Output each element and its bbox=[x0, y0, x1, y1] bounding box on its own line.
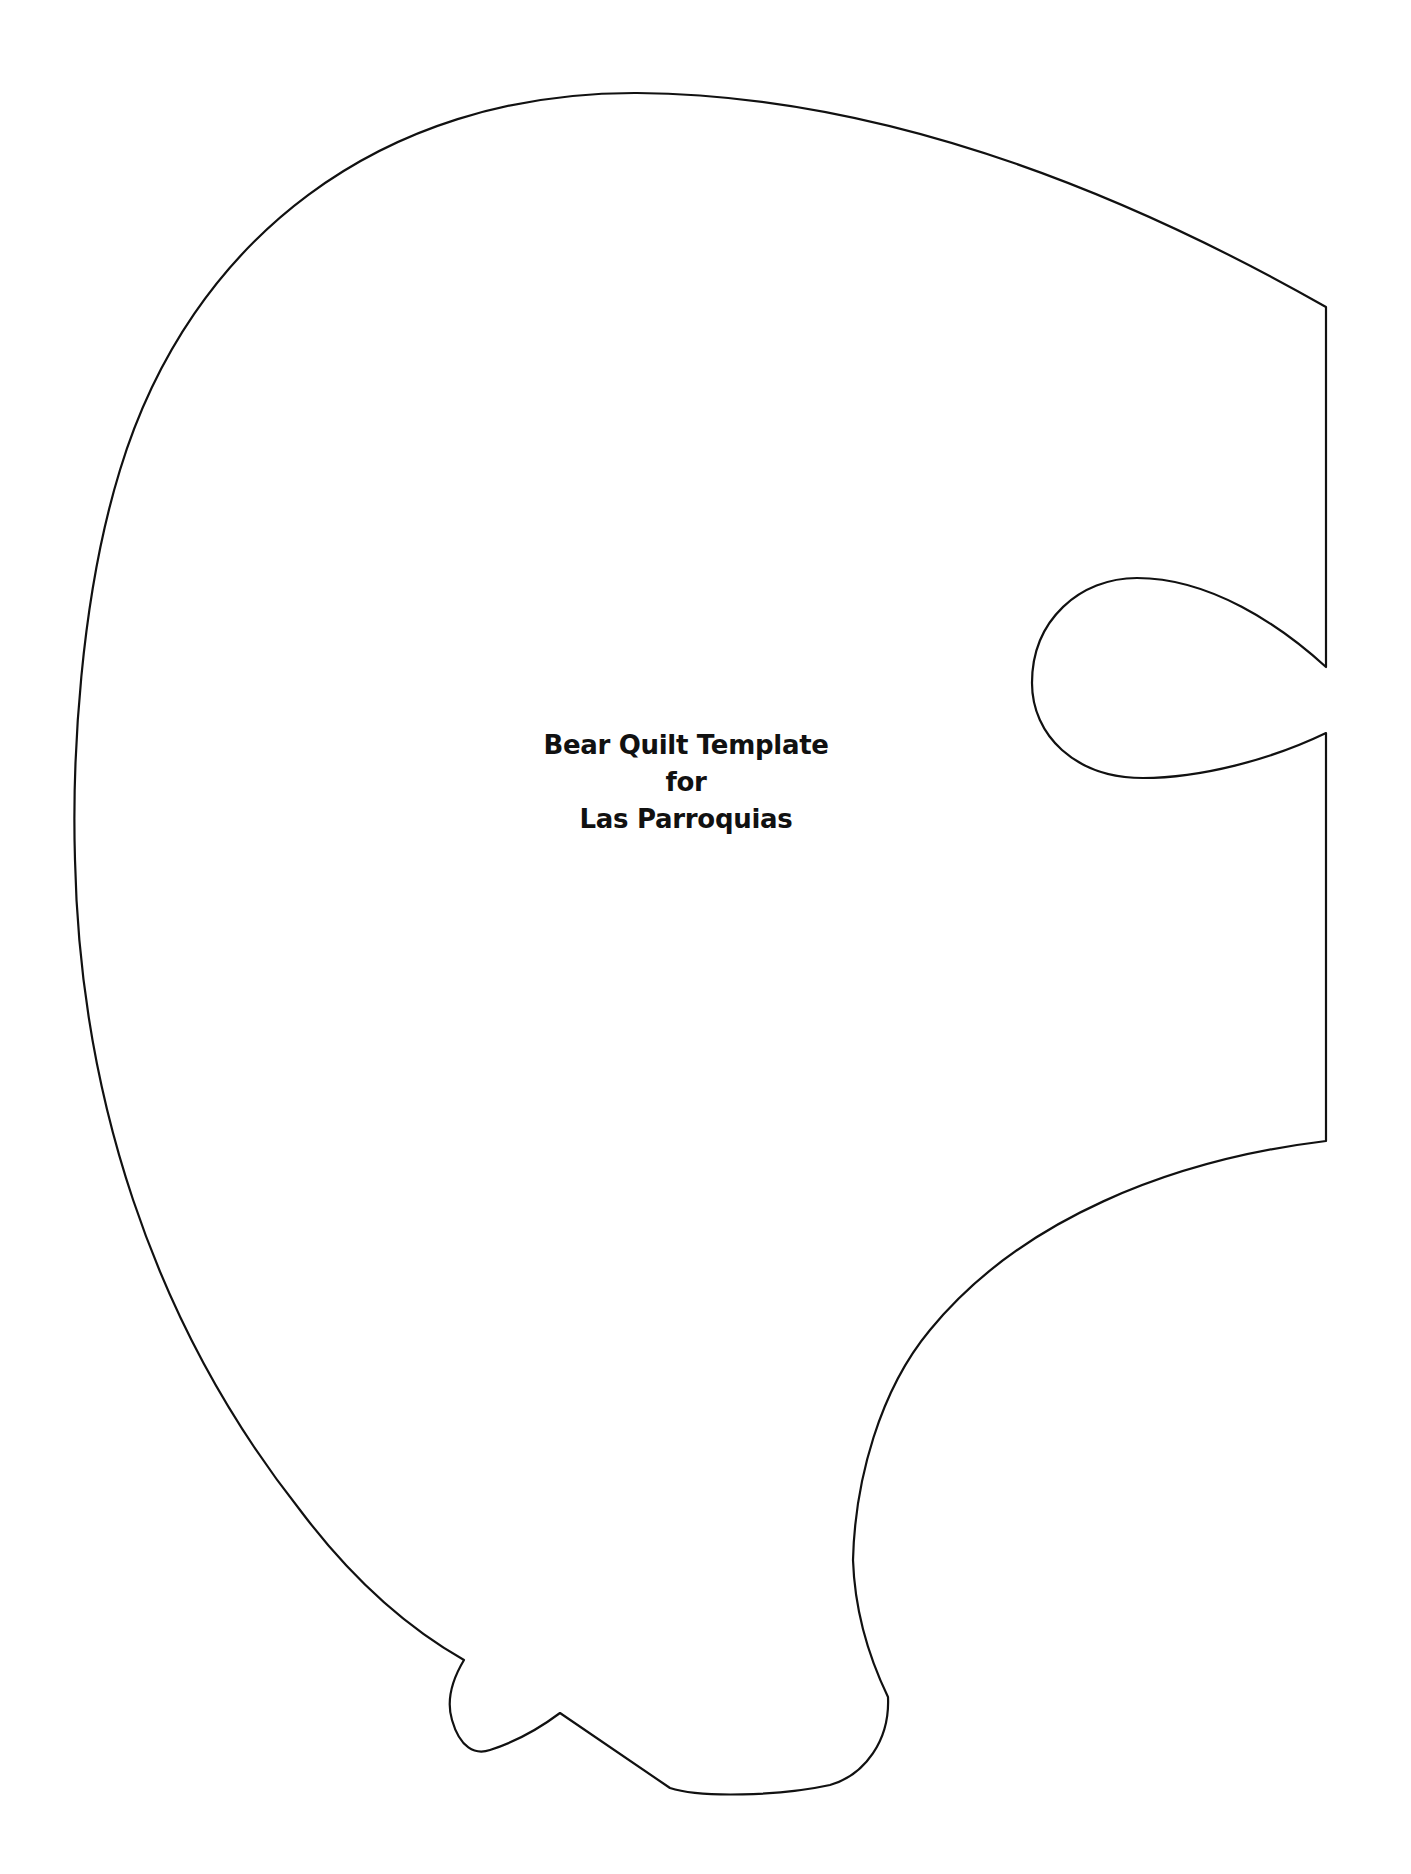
template-title: Bear Quilt Template for Las Parroquias bbox=[476, 727, 896, 838]
title-line-2: for bbox=[476, 764, 896, 801]
title-line-1: Bear Quilt Template bbox=[476, 727, 896, 764]
bear-head-outline-icon bbox=[0, 0, 1411, 1874]
template-page: Bear Quilt Template for Las Parroquias bbox=[0, 0, 1411, 1874]
template-cut-line bbox=[74, 93, 1326, 1794]
title-line-3: Las Parroquias bbox=[476, 801, 896, 838]
